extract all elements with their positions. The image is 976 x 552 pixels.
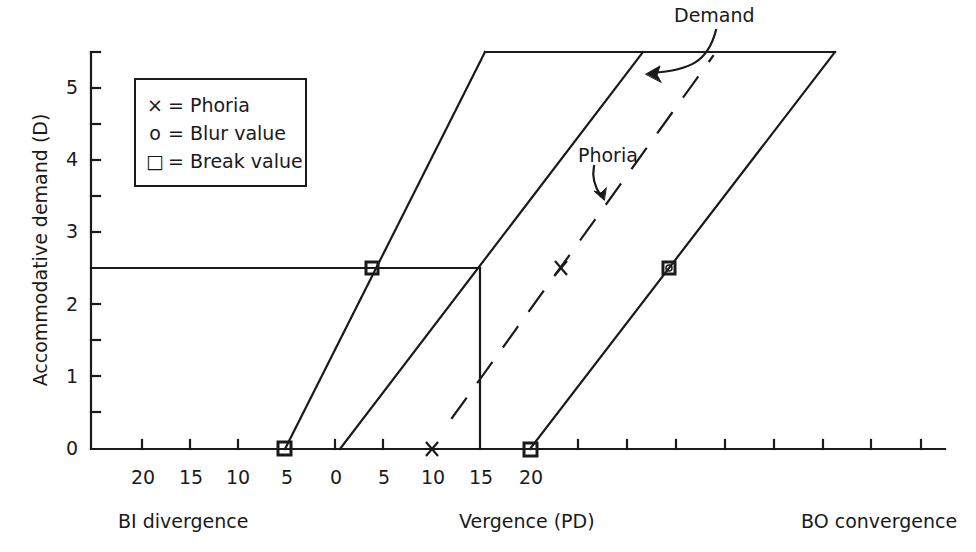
phoria-marker: [555, 261, 567, 275]
x-tick-label: 0: [330, 466, 342, 488]
x-tick-label: 20: [131, 466, 155, 488]
phoria-dashed-line: [452, 56, 713, 418]
y-ticks: [91, 52, 100, 412]
x-axis-label-bo: BO convergence: [801, 510, 957, 532]
x-tick-label: 15: [179, 466, 203, 488]
demand-annotation: Demand: [674, 4, 755, 26]
legend: × = Phoria o = Blur value □ = Break valu…: [134, 78, 307, 187]
legend-item-phoria: × = Phoria: [146, 94, 250, 116]
y-tick-label: 2: [66, 293, 78, 315]
y-tick-label: 3: [66, 220, 78, 242]
y-tick-label: 5: [66, 76, 78, 98]
legend-item-break: □ = Break value: [146, 150, 303, 172]
x-axis-label-bi: BI divergence: [118, 510, 248, 532]
x-tick-label: 5: [378, 466, 390, 488]
x-tick-label: 10: [421, 466, 445, 488]
bo-break-line: [530, 52, 835, 449]
x-tick-label: 15: [469, 466, 493, 488]
y-axis-label: Accommodative demand (D): [29, 114, 51, 387]
x-tick-label: 5: [281, 466, 293, 488]
x-mark-icon: ×: [146, 94, 164, 116]
legend-item-blur: o = Blur value: [146, 122, 286, 144]
phoria-annotation: Phoria: [578, 144, 638, 166]
y-tick-label: 0: [66, 437, 78, 459]
x-axis-label: Vergence (PD): [459, 510, 595, 532]
x-tick-label: 20: [519, 466, 543, 488]
square-icon: □: [146, 150, 164, 172]
y-tick-label: 1: [66, 365, 78, 387]
x-tick-label: 10: [226, 466, 250, 488]
circle-icon: o: [146, 122, 164, 144]
y-tick-label: 4: [66, 148, 78, 170]
